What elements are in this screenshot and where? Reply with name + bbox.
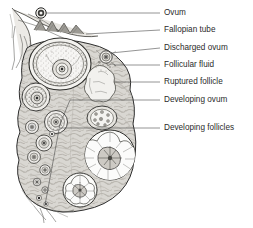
label-ruptured-follicle: Ruptured follicle: [164, 77, 223, 86]
developing-follicle: [33, 178, 41, 186]
ovary-diagram: Ovum Fallopian tube Discharged ovum Foll…: [0, 0, 253, 228]
developing-follicle: [36, 195, 41, 200]
label-fallopian-tube: Fallopian tube: [164, 25, 216, 34]
mature-graafian-follicle: [29, 38, 91, 90]
corpus-albicans: [63, 173, 97, 207]
label-ovum: Ovum: [164, 8, 186, 17]
ovary-diagram-svg: Ovum Fallopian tube Discharged ovum Foll…: [0, 0, 253, 228]
leader-line-discharged-ovum: [111, 48, 160, 53]
label-developing-follicles: Developing follicles: [164, 123, 234, 132]
callout-ovum: Ovum: [46, 8, 186, 17]
developing-follicle: [40, 165, 50, 175]
label-discharged-ovum: Discharged ovum: [164, 43, 228, 52]
label-developing-ovum: Developing ovum: [164, 95, 227, 104]
callout-follicular-fluid: Follicular fluid: [114, 60, 214, 69]
developing-follicle: [44, 202, 48, 206]
developing-follicle: [36, 135, 52, 151]
free-ovum: [36, 8, 46, 18]
leader-line-fallopian-tube: [86, 30, 160, 34]
developing-follicle: [28, 151, 41, 164]
corpus-luteum-small: [87, 106, 117, 130]
developing-follicle: [22, 83, 50, 111]
developing-follicle: [49, 131, 54, 136]
callout-fallopian-tube: Fallopian tube: [86, 25, 216, 34]
callout-discharged-ovum: Discharged ovum: [111, 43, 228, 53]
label-follicular-fluid: Follicular fluid: [164, 60, 214, 69]
developing-follicle: [26, 121, 39, 134]
